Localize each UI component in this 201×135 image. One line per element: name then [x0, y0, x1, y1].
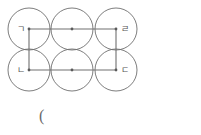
- center-dot-bottom-right: [115, 69, 118, 72]
- center-dot-top-middle: [71, 28, 74, 31]
- vertex-label-top-left: ㄱ: [17, 25, 25, 34]
- circles-group: [8, 8, 137, 91]
- rectangle-group: [29, 29, 116, 70]
- center-dot-top-right: [115, 28, 118, 31]
- center-dot-bottom-middle: [71, 69, 74, 72]
- center-dots-group: [28, 28, 118, 72]
- geometry-diagram-svg: [0, 0, 201, 135]
- center-dot-top-left: [28, 28, 31, 31]
- figure-container: ㄱ ㄴ ㄹ ㄷ (: [0, 0, 201, 135]
- caption-open-paren: (: [39, 108, 44, 124]
- rectangle-outline: [29, 29, 116, 70]
- vertex-label-bottom-left: ㄴ: [17, 66, 25, 75]
- vertex-label-bottom-right: ㄷ: [121, 66, 129, 75]
- vertex-label-top-right: ㄹ: [121, 25, 129, 34]
- center-dot-bottom-left: [28, 69, 31, 72]
